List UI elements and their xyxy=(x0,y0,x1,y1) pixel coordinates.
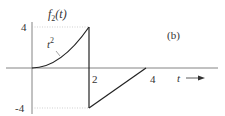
panel-label: (b) xyxy=(167,30,180,41)
plot-area xyxy=(0,0,225,116)
y-tick-4: 4 xyxy=(21,22,27,33)
curve-label: t2 xyxy=(47,37,54,50)
y-axis-label: f2(t) xyxy=(48,8,67,23)
label-leader xyxy=(56,51,60,56)
y-tick-neg4: -4 xyxy=(15,103,24,114)
x-axis-label: t xyxy=(177,73,180,84)
x-tick-4: 4 xyxy=(150,74,156,85)
x-tick-2: 2 xyxy=(92,74,98,85)
ramp-line xyxy=(89,68,146,108)
x-arrow-icon xyxy=(198,76,205,81)
curve-t-squared xyxy=(32,27,89,68)
